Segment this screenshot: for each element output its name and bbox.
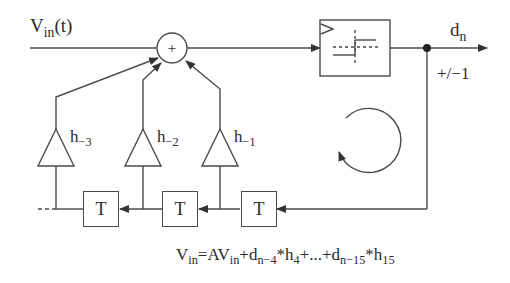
junction-dot bbox=[423, 44, 431, 52]
delay-block-3: T bbox=[83, 191, 119, 227]
tap-label-h-1: h−1 bbox=[234, 128, 256, 149]
delay-block-1: T bbox=[241, 191, 277, 227]
tap-path-h-2 bbox=[143, 63, 161, 129]
tap-path-h-1 bbox=[186, 61, 220, 129]
tap-label-h-2: h−2 bbox=[157, 128, 179, 149]
output-levels-label: +/−1 bbox=[437, 65, 469, 82]
tap-label-h-3: h−3 bbox=[70, 128, 92, 149]
dfe-equation: Vin=AVin+dn−4*h4+...+dn−15*h15 bbox=[176, 246, 395, 267]
tap-amplifier-h-1 bbox=[202, 129, 238, 166]
tap-amplifier-h-3 bbox=[38, 129, 74, 166]
loop-direction-icon bbox=[339, 108, 401, 172]
tap-amplifier-h-2 bbox=[125, 129, 161, 166]
input-label: Vin(t) bbox=[30, 16, 72, 39]
output-label: dn bbox=[450, 20, 466, 43]
delay-block-2: T bbox=[162, 191, 198, 227]
summer-symbol: + bbox=[168, 40, 176, 56]
